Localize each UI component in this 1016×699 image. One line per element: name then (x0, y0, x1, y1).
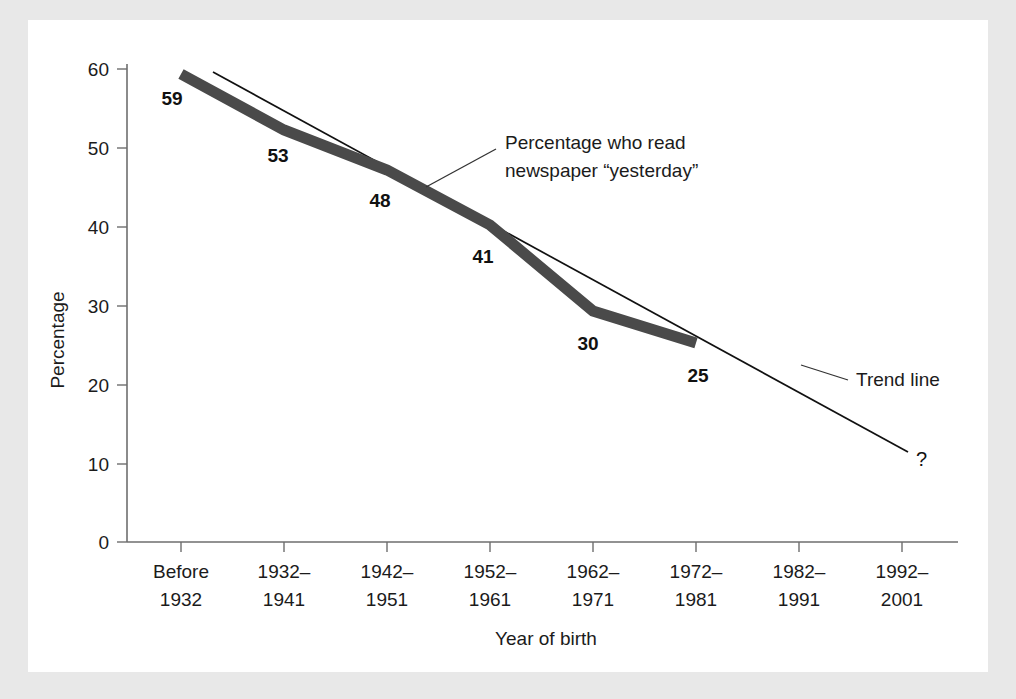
trend-line-end-question-mark: ? (916, 448, 927, 470)
series-annotation-leader-line (426, 149, 496, 187)
data-label-41: 41 (472, 246, 494, 267)
trend-annotation: Trend line (801, 365, 940, 390)
trend-line-path (213, 72, 908, 452)
y-tick-label-0: 0 (98, 532, 109, 553)
data-label-48: 48 (369, 190, 390, 211)
x-tick-label-4-line2: 1971 (572, 589, 614, 610)
newspaper-readership-line-chart: 60 50 40 30 20 10 0 Percentage Before 19… (28, 20, 988, 672)
series-annotation-line2: newspaper “yesterday” (505, 160, 698, 181)
x-tick-label-2-line2: 1951 (366, 589, 408, 610)
x-tick-label-7-line2: 2001 (881, 589, 923, 610)
data-label-53: 53 (267, 145, 288, 166)
figure-card: 60 50 40 30 20 10 0 Percentage Before 19… (28, 20, 988, 672)
y-tick-label-20: 20 (88, 375, 109, 396)
x-tick-label-4-line1: 1962– (567, 561, 620, 582)
data-label-30: 30 (577, 333, 598, 354)
data-label-25: 25 (687, 365, 709, 386)
y-tick-label-40: 40 (88, 217, 109, 238)
x-tick-label-0-line1: Before (153, 561, 209, 582)
x-tick-label-6-line2: 1991 (778, 589, 820, 610)
x-tick-label-0-line2: 1932 (160, 589, 202, 610)
x-tick-label-5-line1: 1972– (670, 561, 723, 582)
x-axis-title: Year of birth (495, 628, 597, 649)
y-tick-label-30: 30 (88, 296, 109, 317)
y-axis-ticks: 60 50 40 30 20 10 0 (88, 59, 127, 553)
x-tick-label-6-line1: 1982– (773, 561, 826, 582)
x-tick-label-2-line1: 1942– (361, 561, 414, 582)
x-tick-label-1-line1: 1932– (258, 561, 311, 582)
trend-annotation-leader-line (801, 365, 848, 380)
trend-annotation-label: Trend line (856, 369, 940, 390)
x-tick-label-7-line1: 1992– (876, 561, 929, 582)
x-axis-labels: Before 1932 1932– 1941 1942– 1951 1952– … (153, 561, 929, 610)
x-axis-ticks (181, 542, 902, 552)
y-tick-label-60: 60 (88, 59, 109, 80)
x-tick-label-1-line2: 1941 (263, 589, 305, 610)
readership-series-band (181, 74, 696, 343)
data-label-59: 59 (161, 88, 182, 109)
x-tick-label-3-line1: 1952– (464, 561, 517, 582)
series-annotation: Percentage who read newspaper “yesterday… (426, 132, 698, 187)
series-annotation-line1: Percentage who read (505, 132, 686, 153)
y-axis-title: Percentage (47, 291, 68, 388)
y-tick-label-50: 50 (88, 138, 109, 159)
y-tick-label-10: 10 (88, 454, 109, 475)
x-tick-label-3-line2: 1961 (469, 589, 511, 610)
x-tick-label-5-line2: 1981 (675, 589, 717, 610)
